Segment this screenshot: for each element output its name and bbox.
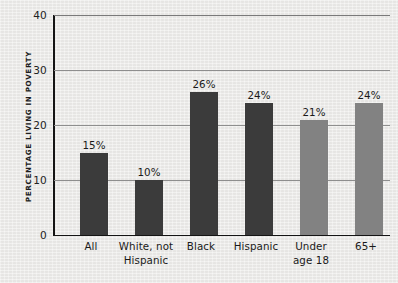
bar-value-white-not-hispanic: 10% — [125, 166, 173, 178]
bar-value-black: 26% — [180, 78, 228, 90]
gridline-20 — [54, 125, 390, 126]
bar-black — [190, 92, 218, 235]
x-label-65-plus: 65+ — [331, 240, 398, 254]
gridline-30 — [54, 70, 390, 71]
y-tick-label-0: 0 — [3, 229, 47, 241]
bar-all — [80, 153, 108, 236]
plot-area: 15% 10% 26% 24% 21% 24% — [53, 15, 390, 235]
bar-value-65-plus: 24% — [345, 89, 393, 101]
bar-value-hispanic: 24% — [235, 89, 283, 101]
bar-under-18 — [300, 120, 328, 236]
bar-value-under-18: 21% — [290, 106, 338, 118]
gridline-40 — [54, 15, 390, 16]
poverty-bar-chart: PERCENTAGE LIVING IN POVERTY 40 30 20 10… — [0, 0, 398, 283]
y-tick-label-40: 40 — [3, 9, 47, 21]
bar-value-all: 15% — [70, 139, 118, 151]
bar-hispanic — [245, 103, 273, 235]
bar-white-not-hispanic — [135, 180, 163, 235]
y-tick-label-20: 20 — [3, 119, 47, 131]
y-tick-label-30: 30 — [3, 64, 47, 76]
bar-65-plus — [355, 103, 383, 235]
y-tick-label-10: 10 — [3, 174, 47, 186]
